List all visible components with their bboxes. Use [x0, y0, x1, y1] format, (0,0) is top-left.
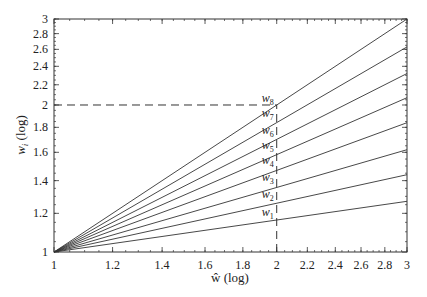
series-line-w8: [54, 19, 407, 252]
x-tick-label: 2.2: [300, 258, 315, 272]
y-tick-label: 2.4: [33, 59, 48, 73]
x-tick-label: 1.2: [105, 258, 120, 272]
series-line-w3: [54, 150, 407, 252]
y-axis-label-text: wi (log): [13, 115, 30, 155]
y-axis-ticks: 11.21.41.61.822.22.42.62.83: [33, 12, 407, 259]
series-line-w5: [54, 98, 407, 252]
series-line-w4: [54, 123, 407, 252]
y-tick-label: 1.2: [33, 206, 48, 220]
x-tick-label: 2.8: [377, 258, 392, 272]
series-line-w7: [54, 47, 407, 252]
y-tick-label: 1.4: [33, 174, 48, 188]
series-labels: w8w7w6w5w4w3w2w1: [262, 91, 274, 221]
series-label-w8: w8: [262, 91, 274, 107]
x-tick-label: 1.4: [155, 258, 170, 272]
series-label-w5: w5: [262, 138, 274, 154]
series-line-w2: [54, 175, 407, 252]
y-tick-label: 1: [42, 245, 48, 259]
series-label-w7: w7: [262, 106, 274, 122]
series-line-w6: [54, 74, 407, 253]
x-axis-ticks: 11.21.41.61.822.22.42.62.83: [51, 19, 410, 272]
y-tick-label: 1.6: [33, 145, 48, 159]
x-tick-label: 1: [51, 258, 57, 272]
y-tick-label: 1.8: [33, 120, 48, 134]
chart-canvas: 11.21.41.61.822.22.42.62.83 11.21.41.61.…: [0, 0, 427, 297]
series-lines: [54, 19, 407, 252]
y-tick-label: 2: [42, 98, 48, 112]
series-label-w4: w4: [262, 153, 274, 169]
x-tick-label: 2: [274, 258, 280, 272]
series-label-w2: w2: [262, 187, 274, 203]
y-tick-label: 2.2: [33, 78, 48, 92]
series-line-w1: [54, 201, 407, 252]
x-axis-label: ŵ (log): [211, 270, 249, 285]
x-tick-label: 2.4: [328, 258, 343, 272]
y-tick-label: 2.8: [33, 27, 48, 41]
y-tick-label: 2.6: [33, 42, 48, 56]
x-tick-label: 2.6: [354, 258, 369, 272]
x-tick-label: 3: [404, 258, 410, 272]
y-axis-label: wi (log): [13, 115, 30, 155]
series-label-w1: w1: [262, 205, 274, 221]
y-tick-label: 3: [42, 12, 48, 26]
